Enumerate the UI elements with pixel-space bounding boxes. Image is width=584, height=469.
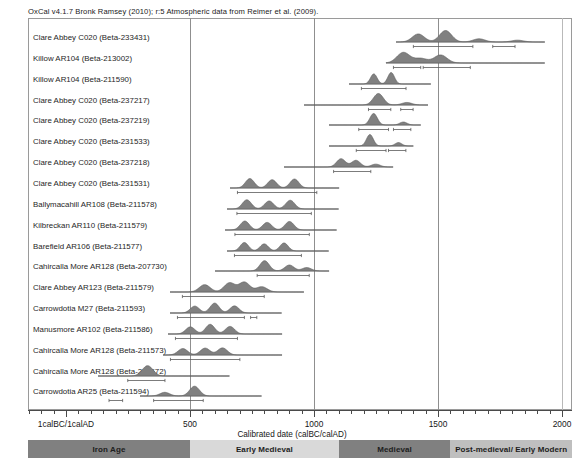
sample-label: Kilbreckan AR110 (Beta-211579) — [33, 220, 147, 231]
sample-label: Carrowdotia M27 (Beta-211593) — [33, 303, 145, 314]
table-row: Carrowdotia M27 (Beta-211593) — [0, 299, 584, 320]
tick-100 — [91, 410, 92, 414]
probability-distribution — [380, 49, 551, 70]
tick-700 — [240, 410, 241, 414]
tick-2000 — [562, 410, 563, 417]
table-row: Clare Abbey C020 (Beta-237219) — [0, 111, 584, 132]
tick-1550 — [450, 410, 451, 414]
probability-distribution — [164, 278, 310, 299]
tick-950 — [302, 410, 303, 414]
sample-label: Barefield AR106 (Beta-211577) — [33, 241, 142, 252]
table-row: Clare Abbey AR123 (Beta-211579) — [0, 278, 584, 299]
probability-distribution — [157, 341, 288, 362]
sample-label: Clare Abbey C020 (Beta-237218) — [33, 157, 150, 168]
tick-0 — [66, 410, 67, 417]
tick-650 — [227, 410, 228, 414]
table-row: Cahircalla More AR128 (Beta-211572) — [0, 362, 584, 383]
period-segment-0: Iron Age — [28, 440, 190, 458]
probability-distribution — [164, 299, 288, 320]
table-row: Clare Abbey C020 (Beta-233431) — [0, 28, 584, 49]
oxcal-plot: OxCal v4.1.7 Bronk Ramsey (2010); r:5 At… — [0, 0, 584, 469]
tick-1450 — [426, 410, 427, 414]
tick-1650 — [475, 410, 476, 414]
tick-1100 — [339, 410, 340, 414]
tick--50 — [54, 410, 55, 414]
table-row: Clare Abbey C020 (Beta-237217) — [0, 91, 584, 112]
period-segment-1: Early Medieval — [190, 440, 339, 458]
probability-distribution — [221, 195, 345, 216]
x-axis-line — [28, 410, 572, 411]
table-row: Manusmore AR102 (Beta-211586) — [0, 320, 584, 341]
tick-50 — [78, 410, 79, 414]
probability-distribution — [209, 257, 335, 278]
tick-label-500: 500 — [183, 419, 197, 429]
probability-distribution — [134, 382, 268, 403]
tick-450 — [178, 410, 179, 414]
tick-1900 — [537, 410, 538, 414]
tick-1850 — [525, 410, 526, 414]
tick-500 — [190, 410, 191, 417]
sample-label: Killow AR104 (Beta-211590) — [33, 74, 132, 85]
tick-1600 — [463, 410, 464, 414]
tick-150 — [103, 410, 104, 414]
tick-1350 — [401, 410, 402, 414]
probability-distribution — [219, 216, 343, 237]
sample-label: Cahircalla More AR128 (Beta-211573) — [33, 345, 166, 356]
sample-label: Cahircalla More AR128 (Beta-207730) — [33, 261, 167, 272]
period-segment-2: Medieval — [339, 440, 451, 458]
tick-1150 — [351, 410, 352, 414]
sample-label: Clare Abbey C020 (Beta-231531) — [33, 178, 150, 189]
probability-distribution — [278, 153, 399, 174]
table-row: Carrowdotia AR25 (Beta-211594) — [0, 382, 584, 403]
probability-distribution — [323, 111, 427, 132]
tick-600 — [215, 410, 216, 414]
tick-label-0: 1calBC/1calAD — [38, 419, 94, 429]
sample-label: Clare Abbey C020 (Beta-237217) — [33, 95, 150, 106]
x-axis-caption: Calibrated date (calBC/calAD) — [0, 430, 584, 439]
page-title: OxCal v4.1.7 Bronk Ramsey (2010); r:5 At… — [28, 7, 318, 16]
tick-300 — [140, 410, 141, 414]
table-row: Clare Abbey C020 (Beta-231531) — [0, 174, 584, 195]
probability-distribution — [298, 91, 434, 112]
sample-label: Clare Abbey AR123 (Beta-211579) — [33, 282, 154, 293]
tick-1800 — [512, 410, 513, 414]
tick-label-1500: 1500 — [429, 419, 448, 429]
tick-400 — [165, 410, 166, 414]
table-row: Cahircalla More AR128 (Beta-211573) — [0, 341, 584, 362]
sample-label: Clare Abbey C020 (Beta-231533) — [33, 136, 150, 147]
sample-label: Clare Abbey C020 (Beta-237219) — [33, 115, 150, 126]
tick-1050 — [326, 410, 327, 414]
period-segment-3: Post-medieval/ Early Modern — [450, 440, 572, 458]
tick-750 — [252, 410, 253, 414]
tick-350 — [153, 410, 154, 414]
table-row: Barefield AR106 (Beta-211577) — [0, 237, 584, 258]
probability-distribution — [162, 320, 288, 341]
tick-200 — [116, 410, 117, 414]
table-row: Clare Abbey C020 (Beta-231533) — [0, 132, 584, 153]
tick-1300 — [388, 410, 389, 414]
probability-distribution — [323, 132, 419, 153]
table-row: Kilbreckan AR110 (Beta-211579) — [0, 216, 584, 237]
tick-1950 — [550, 410, 551, 414]
sample-label: Carrowdotia AR25 (Beta-211594) — [33, 386, 149, 397]
sample-label: Killow AR104 (Beta-213002) — [33, 53, 132, 64]
table-row: Clare Abbey C020 (Beta-237218) — [0, 153, 584, 174]
probability-distribution — [92, 362, 235, 383]
tick-800 — [264, 410, 265, 414]
table-row: Ballymacahill AR108 (Beta-211578) — [0, 195, 584, 216]
sample-label: Clare Abbey C020 (Beta-233431) — [33, 32, 150, 43]
probability-distribution — [343, 70, 437, 91]
tick-1250 — [376, 410, 377, 414]
tick--150 — [29, 410, 30, 414]
table-row: Killow AR104 (Beta-213002) — [0, 49, 584, 70]
tick-1000 — [314, 410, 315, 417]
sample-label: Ballymacahill AR108 (Beta-211578) — [33, 199, 157, 210]
tick-label-2000: 2000 — [553, 419, 572, 429]
tick-1200 — [364, 410, 365, 414]
tick-1500 — [438, 410, 439, 417]
tick-1700 — [488, 410, 489, 414]
tick-850 — [277, 410, 278, 414]
probability-distribution — [390, 28, 551, 49]
tick-label-1000: 1000 — [305, 419, 324, 429]
sample-label: Manusmore AR102 (Beta-211586) — [33, 324, 153, 335]
